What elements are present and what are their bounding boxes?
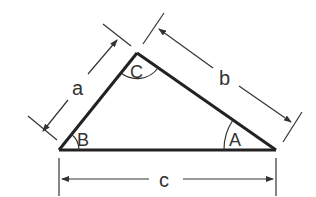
side-a-label: a: [72, 77, 84, 99]
angle-b-label: B: [77, 130, 89, 150]
side-c-label: c: [159, 169, 169, 191]
side-b-label: b: [219, 67, 230, 89]
angle-a-label: A: [229, 130, 241, 150]
side-b-line: [137, 53, 276, 150]
triangle-diagram: a b c B C A: [0, 0, 316, 197]
triangle: [59, 53, 276, 150]
side-a-line: [59, 53, 137, 150]
angle-c-label: C: [130, 62, 143, 82]
